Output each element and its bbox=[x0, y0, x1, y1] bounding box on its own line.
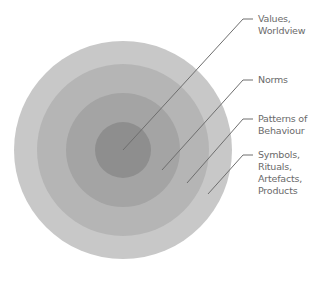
label-patterns-of-behaviour: Patterns of Behaviour bbox=[258, 113, 307, 137]
label-symbols-rituals-artefacts-products: Symbols, Rituals, Artefacts, Products bbox=[258, 149, 302, 197]
label-line: Values, bbox=[258, 13, 305, 25]
label-line: Products bbox=[258, 185, 302, 197]
label-line: Patterns of bbox=[258, 113, 307, 125]
label-line: Behaviour bbox=[258, 125, 307, 137]
label-line: Rituals, bbox=[258, 161, 302, 173]
label-line: Worldview bbox=[258, 25, 305, 37]
label-line: Norms bbox=[258, 74, 288, 86]
label-norms: Norms bbox=[258, 74, 288, 86]
label-line: Symbols, bbox=[258, 149, 302, 161]
label-line: Artefacts, bbox=[258, 173, 302, 185]
culture-layers-diagram bbox=[0, 0, 327, 285]
label-values-worldview: Values, Worldview bbox=[258, 13, 305, 37]
